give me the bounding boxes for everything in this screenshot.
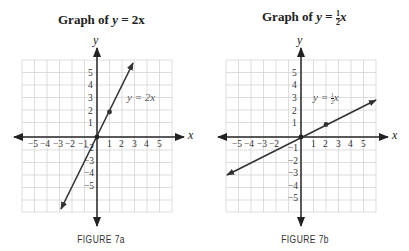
figure-7a-y-label: y — [93, 33, 98, 48]
figure-7a-x-label: x — [188, 128, 193, 143]
figure-7b-point-2-1 — [324, 122, 329, 127]
figure-7b-y-label: y — [297, 33, 302, 48]
figure-7a-caption: FIGURE 7a — [77, 234, 125, 245]
graphs-canvas — [0, 0, 409, 251]
figure-7b-line-label: y = 12x — [313, 91, 339, 105]
figure-7b-point-origin — [299, 135, 304, 140]
figure-7b-x-label: x — [392, 128, 397, 143]
figure-7a-point-1-2 — [107, 110, 112, 115]
figure-7b-caption: FIGURE 7b — [281, 234, 329, 245]
figure-7a-point-origin — [95, 135, 100, 140]
figure-7a-line-label: y = 2x — [127, 91, 155, 103]
